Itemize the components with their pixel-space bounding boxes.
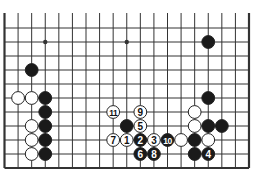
white-stone-icon xyxy=(25,134,38,147)
white-stone xyxy=(188,106,201,119)
white-stone-icon xyxy=(202,134,215,147)
move-number: 3 xyxy=(151,135,157,146)
black-stone-icon xyxy=(202,92,215,105)
black-stone-move-6: 6 xyxy=(134,148,147,161)
move-number: 8 xyxy=(151,149,157,160)
move-number: 6 xyxy=(138,149,144,160)
white-stone xyxy=(202,134,215,147)
black-stone xyxy=(188,134,201,147)
black-stone-icon xyxy=(39,120,52,133)
black-stone-icon xyxy=(25,64,38,77)
white-stone-icon xyxy=(25,120,38,133)
black-stone-move-8: 8 xyxy=(148,148,161,161)
white-stone xyxy=(175,134,188,147)
black-stone-icon xyxy=(215,120,228,133)
white-stone-icon xyxy=(188,120,201,133)
go-board: 1195712310684 xyxy=(0,0,254,178)
move-number: 1 xyxy=(124,135,130,146)
black-stone xyxy=(25,64,38,77)
black-stone xyxy=(202,36,215,49)
move-number: 10 xyxy=(163,136,172,146)
black-stone-icon xyxy=(188,148,201,161)
black-stone-icon xyxy=(39,148,52,161)
white-stone-icon xyxy=(12,92,25,105)
black-stone xyxy=(215,120,228,133)
move-number: 4 xyxy=(205,149,211,160)
white-stone-icon xyxy=(25,148,38,161)
black-stone-move-2: 2 xyxy=(134,134,147,147)
white-stone-move-5: 5 xyxy=(134,120,147,133)
black-stone-icon xyxy=(39,134,52,147)
black-stone xyxy=(39,120,52,133)
black-stone-icon xyxy=(39,92,52,105)
black-stone xyxy=(39,92,52,105)
black-stone-move-4: 4 xyxy=(202,148,215,161)
white-stone-icon xyxy=(188,106,201,119)
white-stone xyxy=(25,120,38,133)
white-stone-move-1: 1 xyxy=(120,134,133,147)
move-number: 7 xyxy=(110,135,116,146)
star-point-icon xyxy=(43,40,47,44)
move-number: 11 xyxy=(109,108,118,118)
white-stone xyxy=(25,92,38,105)
black-stone-icon xyxy=(39,106,52,119)
white-stone-move-9: 9 xyxy=(134,106,147,119)
black-stone-icon xyxy=(188,134,201,147)
black-stone xyxy=(202,92,215,105)
black-stone xyxy=(39,134,52,147)
move-number: 5 xyxy=(138,121,144,132)
black-stone xyxy=(39,148,52,161)
white-stone-move-3: 3 xyxy=(148,134,161,147)
white-stone xyxy=(12,92,25,105)
white-stone-move-11: 11 xyxy=(107,106,120,119)
white-stone xyxy=(25,134,38,147)
white-stone-icon xyxy=(25,92,38,105)
black-stone-icon xyxy=(202,120,215,133)
white-stone-move-7: 7 xyxy=(107,134,120,147)
black-stone xyxy=(202,120,215,133)
star-point-icon xyxy=(125,40,129,44)
black-stone xyxy=(39,106,52,119)
white-stone xyxy=(25,148,38,161)
black-stone xyxy=(188,148,201,161)
white-stone xyxy=(188,120,201,133)
black-stone-move-10: 10 xyxy=(161,134,174,147)
black-stone xyxy=(120,120,133,133)
move-number: 2 xyxy=(138,135,144,146)
move-number: 9 xyxy=(138,107,144,118)
black-stone-icon xyxy=(120,120,133,133)
black-stone-icon xyxy=(202,36,215,49)
white-stone-icon xyxy=(175,134,188,147)
